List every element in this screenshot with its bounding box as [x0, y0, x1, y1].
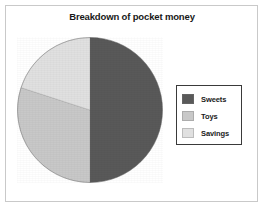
chart-legend: Sweets Toys Savings: [176, 85, 242, 145]
pie-slice-sweets: [90, 38, 163, 183]
pie-svg: [17, 37, 163, 183]
legend-swatch-savings: [182, 128, 194, 138]
pie-chart-figure: Breakdown of pocket money Sweets Toys Sa…: [0, 0, 264, 208]
pie-chart-plot: [17, 37, 163, 183]
legend-item-sweets: Sweets: [182, 91, 241, 107]
legend-swatch-toys: [182, 111, 194, 121]
legend-item-toys: Toys: [182, 108, 241, 124]
legend-swatch-sweets: [182, 94, 194, 104]
pie-slice-group: [17, 38, 162, 183]
legend-item-savings: Savings: [182, 125, 241, 141]
legend-label-toys: Toys: [201, 112, 218, 121]
legend-label-savings: Savings: [201, 129, 229, 138]
chart-title: Breakdown of pocket money: [0, 11, 264, 22]
legend-label-sweets: Sweets: [201, 95, 226, 104]
